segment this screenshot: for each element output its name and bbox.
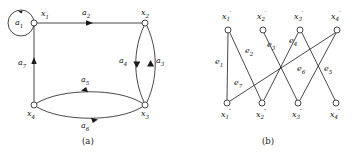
arc-a7-arrowhead bbox=[31, 57, 36, 64]
node-x4[interactable] bbox=[31, 102, 37, 108]
node-x1-dprime[interactable] bbox=[224, 100, 230, 106]
arc-label-a2: a2 bbox=[82, 9, 90, 19]
node-label-x4-dprime: x4″ bbox=[330, 109, 340, 121]
node-x4-dprime[interactable] bbox=[333, 100, 339, 106]
edge-label-e4: e4 bbox=[289, 37, 297, 47]
edge-e1 bbox=[227, 33, 228, 100]
node-x3[interactable] bbox=[142, 102, 148, 108]
arc-label-a3: a3 bbox=[156, 57, 164, 67]
figure-container: x1 x2 x3 x4 a1 a2 a3 a4 a5 a6 a7 bbox=[0, 0, 358, 157]
node-label-x1: x1 bbox=[41, 10, 49, 20]
arc-a5-curve bbox=[37, 92, 142, 103]
node-x3-dprime[interactable] bbox=[295, 100, 301, 106]
node-x4-prime[interactable] bbox=[334, 27, 340, 33]
caption-a: (a) bbox=[82, 136, 94, 146]
node-label-x3-prime: x3′ bbox=[294, 11, 303, 23]
arc-label-a5: a5 bbox=[81, 76, 89, 86]
arc-label-a1: a1 bbox=[15, 19, 23, 29]
node-label-x1-dprime: x1″ bbox=[221, 109, 231, 121]
node-label-x3: x3 bbox=[141, 110, 149, 120]
node-label-x4: x4 bbox=[27, 110, 35, 120]
edge-label-e3: e3 bbox=[267, 41, 275, 51]
node-label-x2: x2 bbox=[141, 9, 149, 19]
node-x1[interactable] bbox=[31, 20, 37, 26]
node-label-x2-prime: x2′ bbox=[257, 11, 266, 23]
node-x1-prime[interactable] bbox=[225, 27, 231, 33]
node-label-x1-prime: x1′ bbox=[222, 11, 231, 23]
edge-label-e5: e5 bbox=[324, 65, 332, 75]
arc-label-a4: a4 bbox=[119, 57, 127, 67]
node-x2-dprime[interactable] bbox=[259, 100, 265, 106]
panel-b-bipartite-graph: x1′ x2′ x3′ x4′ x1″ x2″ x3″ x4″ e1 e2 bbox=[178, 0, 358, 157]
caption-b: (b) bbox=[262, 136, 274, 146]
edge-label-e6: e6 bbox=[297, 65, 305, 75]
edge-label-e7: e7 bbox=[234, 79, 242, 89]
edge-e2 bbox=[230, 33, 261, 100]
arc-a4-arrowhead bbox=[133, 62, 140, 68]
node-x2-prime[interactable] bbox=[260, 27, 266, 33]
node-x3-prime[interactable] bbox=[297, 27, 303, 33]
arc-label-a6: a6 bbox=[81, 122, 89, 132]
node-label-x4-prime: x4′ bbox=[331, 11, 340, 23]
arc-a3-arrowhead bbox=[147, 60, 154, 66]
panel-a-directed-graph: x1 x2 x3 x4 a1 a2 a3 a4 a5 a6 a7 bbox=[0, 0, 180, 157]
arc-a1-arrowhead bbox=[18, 10, 23, 13]
node-x2[interactable] bbox=[142, 20, 148, 26]
node-label-x2-dprime: x2″ bbox=[256, 109, 266, 121]
arc-label-a7: a7 bbox=[18, 59, 26, 69]
arc-a5-arrowhead bbox=[81, 87, 88, 92]
node-label-x3-dprime: x3″ bbox=[292, 109, 302, 121]
edge-label-e1: e1 bbox=[215, 58, 223, 68]
edge-label-e2: e2 bbox=[245, 47, 253, 57]
arc-a2-arrowhead bbox=[86, 20, 93, 25]
arc-a6-curve bbox=[37, 107, 142, 118]
